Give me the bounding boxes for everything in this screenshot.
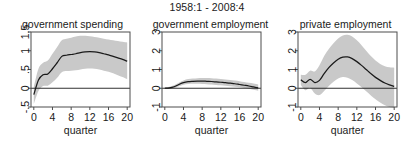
x-tick-label: 8 [199, 111, 205, 123]
x-tick-label: 20 [121, 111, 133, 123]
confidence-band [34, 36, 127, 104]
y-tick-label: -1 [286, 102, 298, 111]
figure-container: 1958:1 - 2008:4 government spending -.50… [0, 0, 414, 152]
x-tick-label: 8 [335, 111, 341, 123]
chart-panel-government-spending: government spending -.50.511.5048121620q… [0, 18, 145, 152]
y-tick-label: 0 [286, 85, 298, 91]
y-tick-label: 3 [150, 29, 162, 35]
chart-panel-private-employment: private employment -10123048121620quarte… [277, 18, 414, 152]
x-axis-label: quarter [195, 124, 229, 136]
y-tick-label: -1 [150, 102, 162, 111]
y-tick-label: .5 [19, 65, 31, 74]
x-tick-label: 4 [50, 111, 56, 123]
y-tick-label: 1 [150, 66, 162, 72]
x-tick-label: 0 [298, 111, 304, 123]
chart-panel-government-employment: government employment -10123048121620qua… [138, 18, 283, 152]
x-tick-label: 12 [84, 111, 96, 123]
x-tick-label: 20 [388, 111, 400, 123]
y-tick-label: 3 [286, 29, 298, 35]
y-tick-label: 0 [150, 85, 162, 91]
confidence-band [301, 35, 394, 108]
x-axis-label: quarter [64, 124, 98, 136]
x-tick-label: 16 [103, 111, 115, 123]
y-tick-label: 1 [286, 66, 298, 72]
panel-plot-area: -.50.511.5048121620quarter [0, 18, 145, 152]
y-tick-label: 1.5 [19, 25, 31, 40]
x-tick-label: 0 [31, 111, 37, 123]
y-tick-label: 2 [286, 48, 298, 54]
x-tick-label: 12 [351, 111, 363, 123]
y-tick-label: 1 [19, 48, 31, 54]
y-tick-label: 2 [150, 48, 162, 54]
x-tick-label: 8 [68, 111, 74, 123]
x-axis-label: quarter [331, 124, 365, 136]
y-tick-label: 0 [19, 85, 31, 91]
x-tick-label: 20 [252, 111, 264, 123]
x-tick-label: 4 [181, 111, 187, 123]
x-tick-label: 0 [162, 111, 168, 123]
y-tick-label: -.5 [19, 101, 31, 113]
panel-plot-area: -10123048121620quarter [277, 18, 414, 152]
x-tick-label: 4 [317, 111, 323, 123]
x-tick-label: 16 [370, 111, 382, 123]
plot-frame [162, 32, 261, 107]
x-tick-label: 16 [234, 111, 246, 123]
panel-plot-area: -10123048121620quarter [138, 18, 283, 152]
x-tick-label: 12 [215, 111, 227, 123]
figure-title: 1958:1 - 2008:4 [0, 1, 414, 13]
